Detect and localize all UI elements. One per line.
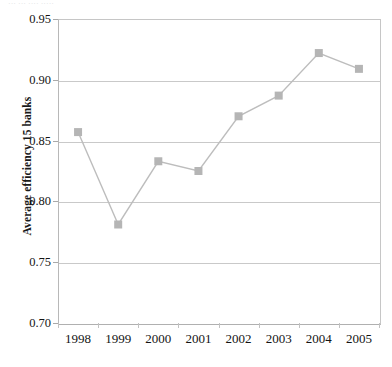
chart-figure: ··· ··· ···· ····· Average efficiency 15…	[0, 0, 392, 367]
y-gridline	[59, 263, 380, 264]
y-tick-label: 0.85	[11, 135, 51, 148]
y-tick-mark	[53, 141, 58, 142]
x-tick-mark	[259, 323, 260, 328]
y-tick-label: 0.70	[11, 317, 51, 330]
plot-area	[58, 19, 381, 325]
y-gridline	[59, 142, 380, 143]
x-tick-mark	[58, 323, 59, 328]
y-tick-mark	[53, 80, 58, 81]
x-tick-mark	[138, 323, 139, 328]
y-tick-mark	[53, 201, 58, 202]
y-tick-label: 0.95	[11, 13, 51, 26]
y-tick-label: 0.80	[11, 195, 51, 208]
x-tick-mark	[379, 323, 380, 328]
y-tick-label: 0.90	[11, 74, 51, 87]
x-tick-mark	[98, 323, 99, 328]
y-gridline	[59, 81, 380, 82]
y-tick-label: 0.75	[11, 256, 51, 269]
y-gridline	[59, 202, 380, 203]
y-tick-mark	[53, 19, 58, 20]
y-tick-mark	[53, 262, 58, 263]
x-tick-mark	[178, 323, 179, 328]
x-tick-label: 2005	[329, 331, 389, 346]
x-tick-mark	[339, 323, 340, 328]
caption-fragment-text: ··· ··· ···· ·····	[8, 0, 228, 7]
x-tick-mark	[299, 323, 300, 328]
x-tick-mark	[219, 323, 220, 328]
